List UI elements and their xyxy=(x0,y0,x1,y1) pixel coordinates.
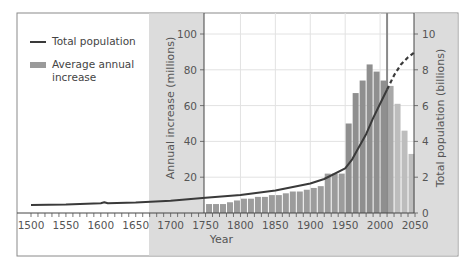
line-swatch-icon xyxy=(30,41,46,43)
y-right-tick-label: 10 xyxy=(422,28,435,40)
bar xyxy=(234,200,240,213)
legend-item-increase: Average annual increase xyxy=(30,58,142,84)
y-right-tick-label: 6 xyxy=(422,100,429,112)
bar xyxy=(227,202,233,213)
bar xyxy=(374,72,380,213)
bar xyxy=(262,197,268,213)
x-tick-label: 1550 xyxy=(53,219,80,231)
bar xyxy=(346,124,352,214)
bar xyxy=(339,174,345,213)
bar xyxy=(241,199,247,213)
x-tick-label: 2000 xyxy=(367,219,394,231)
bar xyxy=(402,131,408,213)
y-left-tick-label: 100 xyxy=(177,28,197,40)
x-tick-label: 1850 xyxy=(262,219,289,231)
bar xyxy=(332,174,338,213)
legend-item-population: Total population xyxy=(30,35,142,48)
legend-label-population: Total population xyxy=(52,35,136,48)
bar xyxy=(360,81,366,213)
x-tick-label: 1600 xyxy=(87,219,114,231)
y-right-tick-label: 2 xyxy=(422,171,429,183)
x-tick-label: 1700 xyxy=(157,219,184,231)
y-right-axis-title: Total population (billions) xyxy=(434,49,447,188)
y-right-tick-label: 8 xyxy=(422,64,429,76)
bar xyxy=(220,204,226,213)
y-left-tick-label: 40 xyxy=(184,135,197,147)
y-left-tick-label: 60 xyxy=(184,100,197,112)
bar xyxy=(367,64,373,213)
x-axis-title: Year xyxy=(209,233,234,246)
bar xyxy=(290,192,296,213)
y-left-tick-label: 80 xyxy=(184,64,197,76)
x-tick-label: 1500 xyxy=(18,219,45,231)
x-tick-label: 1650 xyxy=(122,219,149,231)
legend: Total population Average annual increase xyxy=(30,35,142,94)
y-right-tick-label: 0 xyxy=(422,207,429,219)
y-left-tick-label: 20 xyxy=(184,171,197,183)
bar xyxy=(283,193,289,213)
bar xyxy=(325,174,331,213)
bar xyxy=(255,197,261,213)
x-tick-label: 1800 xyxy=(227,219,254,231)
x-tick-label: 1900 xyxy=(297,219,324,231)
bar xyxy=(388,86,394,213)
bar xyxy=(276,195,282,213)
bar xyxy=(248,199,254,213)
x-tick-label: 2050 xyxy=(402,219,429,231)
y-left-axis-title: Annual increase (millions) xyxy=(164,37,177,180)
bar xyxy=(206,204,212,213)
x-tick-label: 1950 xyxy=(332,219,359,231)
bar xyxy=(213,204,219,213)
bar xyxy=(297,192,303,213)
bar xyxy=(304,190,310,213)
bar xyxy=(269,195,275,213)
bar xyxy=(311,188,317,213)
bar-swatch-icon xyxy=(30,62,46,68)
bar xyxy=(318,186,324,213)
legend-label-increase: Average annual increase xyxy=(52,58,142,84)
y-right-tick-label: 4 xyxy=(422,135,429,147)
x-tick-label: 1750 xyxy=(192,219,219,231)
bar xyxy=(395,104,401,213)
